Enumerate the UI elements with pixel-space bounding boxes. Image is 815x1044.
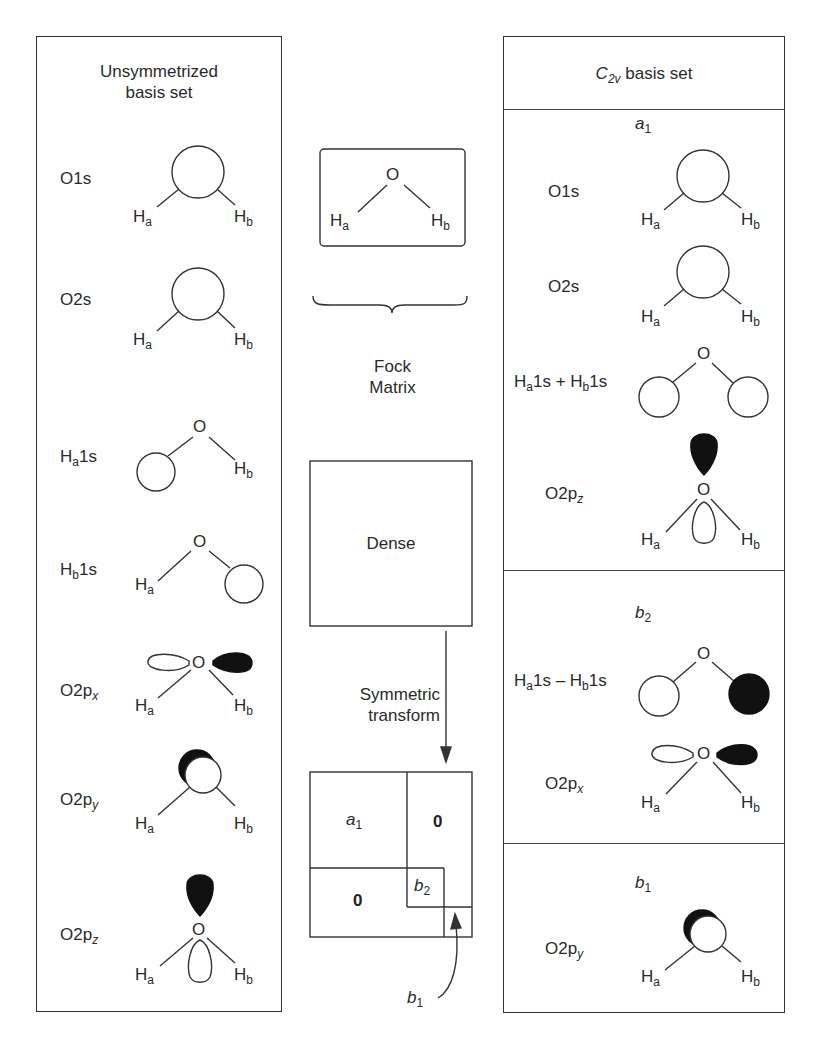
atom-o: O: [193, 533, 206, 551]
atom-hb: Hb: [741, 794, 760, 812]
atom-o: O: [697, 345, 710, 363]
c2v-label-o2pz: O2pz: [545, 484, 583, 504]
atom-o: O: [192, 654, 205, 672]
b2-b1-divider: [503, 843, 785, 844]
atom-ha: Ha: [135, 697, 154, 715]
atom-ha: Ha: [135, 576, 154, 594]
c2v-title-tail: basis set: [621, 64, 693, 83]
atom-ha: Ha: [641, 968, 660, 986]
c2v-title-sub: 2v: [608, 72, 621, 86]
atom-ha: Ha: [135, 815, 154, 833]
atom-ha: Ha: [641, 211, 660, 229]
atom-o: O: [697, 481, 710, 499]
c2v-header-divider: [503, 109, 785, 110]
atom-hb: Hb: [234, 815, 253, 833]
atom-ha: Ha: [133, 208, 152, 226]
c2v-basis-panel: [503, 36, 785, 1013]
block-diagonal-matrix: [310, 772, 472, 937]
atom-hb: Hb: [741, 968, 760, 986]
atom-ha: Ha: [133, 331, 152, 349]
section-a1-heading: a1: [635, 114, 651, 134]
c2v-label-o1s: O1s: [548, 182, 579, 202]
atom-hb: Hb: [234, 208, 253, 226]
atom-hb: Hb: [234, 697, 253, 715]
fock-line2: Matrix: [330, 377, 455, 398]
atom-o: O: [697, 645, 710, 663]
fock-line1: Fock: [330, 356, 455, 377]
atom-o: O: [193, 418, 206, 436]
atom-ha: Ha: [641, 531, 660, 549]
o2s-orbital-icon: [157, 268, 235, 331]
atom-hb: Hb: [234, 331, 253, 349]
c2v-label-ha1s-plus-hb1s: Ha1s + Hb1s: [514, 372, 607, 392]
a1-b2-divider: [503, 570, 785, 571]
symmetric-transform-label: Symmetric transform: [335, 684, 440, 726]
o2py-orbital-icon: [158, 750, 235, 815]
c2v-label-o2py: O2py: [545, 939, 583, 959]
b1-arrow-icon: [451, 914, 461, 929]
atom-hb: Hb: [741, 531, 760, 549]
atom-o: O: [192, 921, 205, 939]
atom-ha: Ha: [135, 966, 154, 984]
curly-brace-icon: [313, 296, 467, 313]
atom-ha: Ha: [330, 212, 349, 230]
block-b2-label: b2: [414, 876, 430, 896]
atom-hb: Hb: [234, 966, 253, 984]
section-b2-heading: b2: [635, 603, 651, 623]
block-zero-lower: 0: [353, 891, 362, 911]
atom-hb: Hb: [741, 211, 760, 229]
hb1s-orbital-icon: [158, 551, 263, 603]
arrow-down-icon: [441, 747, 451, 762]
o1s-orbital-icon: [157, 146, 235, 207]
c2v-label-o2px: O2px: [545, 774, 583, 794]
transform-line2: transform: [335, 705, 440, 726]
c2v-label-o2s: O2s: [548, 277, 579, 297]
atom-ha: Ha: [641, 308, 660, 326]
atom-o: O: [386, 166, 399, 184]
atom-ha: Ha: [641, 794, 660, 812]
c2v-title-main: C: [596, 64, 608, 83]
b1-pointer-line: [438, 925, 457, 998]
atom-hb: Hb: [741, 308, 760, 326]
dense-label: Dense: [310, 533, 472, 554]
block-a1-label: a1: [346, 810, 362, 830]
ha1s-orbital-icon: [137, 437, 235, 491]
atom-hb: Hb: [234, 460, 253, 478]
block-zero-upper: 0: [433, 812, 442, 832]
atom-o: O: [697, 745, 710, 763]
transform-line1: Symmetric: [335, 684, 440, 705]
c2v-label-ha1s-minus-hb1s: Ha1s – Hb1s: [514, 671, 607, 691]
block-b1-label: b1: [407, 988, 423, 1008]
c2v-title: C2v basis set: [503, 63, 785, 90]
fock-matrix-label: Fock Matrix: [330, 356, 455, 398]
atom-hb: Hb: [431, 212, 450, 230]
section-b1-heading: b1: [635, 873, 651, 893]
